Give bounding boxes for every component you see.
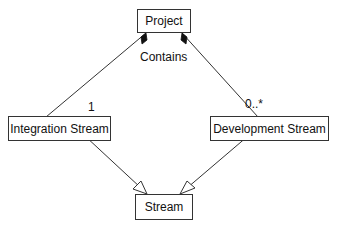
stream-box: Stream — [135, 194, 193, 220]
development-stream-box: Development Stream — [210, 116, 329, 141]
generalization-line-development — [187, 136, 248, 188]
generalization-line-integration — [85, 136, 141, 188]
composition-line-integration — [46, 33, 146, 117]
multiplicity-one-label: 1 — [88, 100, 95, 114]
composition-diamond-left-icon — [141, 33, 147, 44]
connector-lines — [0, 0, 337, 226]
contains-label: Contains — [140, 50, 187, 64]
integration-stream-box: Integration Stream — [8, 116, 111, 141]
project-box: Project — [137, 9, 191, 33]
multiplicity-many-label: 0..* — [245, 97, 263, 111]
composition-diamond-right-icon — [181, 33, 187, 44]
